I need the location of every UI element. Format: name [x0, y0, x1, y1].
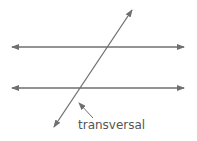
transversal-label: transversal [78, 118, 145, 132]
label-pointer-arrow [79, 103, 93, 118]
transversal-line [54, 10, 132, 127]
